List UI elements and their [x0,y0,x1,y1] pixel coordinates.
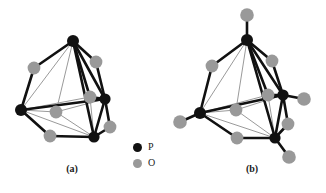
oxygen-atom [230,104,243,117]
phosphorus-atom [67,35,79,47]
oxygen-atom [266,55,279,68]
legend: P O [133,139,179,171]
oxygen-circle-icon [133,159,142,168]
bond-front [50,136,94,137]
bonds-layer [21,15,304,157]
oxygen-atom [50,106,63,119]
bond-front [247,40,275,138]
molecular-structure-figure: (a) (b) P O [0,0,326,193]
oxygen-atom [104,121,117,134]
oxygen-atom [44,130,57,143]
phosphorus-atom [241,34,253,46]
oxygen-atom [262,89,275,102]
oxygen-atom [173,115,187,129]
bond-front [200,66,212,113]
oxygen-atom [297,92,311,106]
oxygen-atom [231,132,244,145]
oxygen-atom [90,56,103,69]
phosphorus-atom [194,107,206,119]
oxygen-atom [282,150,296,164]
bond-back [236,40,247,110]
legend-label-phosphorus: P [148,142,154,152]
subfigure-label-a: (a) [52,163,92,174]
legend-item-oxygen: O [133,155,179,171]
bond-front [73,41,94,137]
oxygen-atom [84,91,97,104]
bond-front [21,68,34,110]
bond-front [200,113,237,138]
oxygen-atom [240,8,254,22]
oxygen-atom [206,60,219,73]
oxygen-atom [282,118,295,131]
legend-label-oxygen: O [148,158,155,168]
phosphorus-atom [88,131,99,142]
bond-front [212,40,247,66]
phosphorus-atom [15,104,27,116]
subfigure-label-b: (b) [232,163,272,174]
oxygen-atom [28,62,41,75]
phosphorus-circle-icon [133,143,142,152]
phosphorus-atom [269,132,280,143]
phosphorus-atom [99,93,110,104]
legend-item-phosphorus: P [133,139,179,155]
phosphorus-atom [277,89,288,100]
